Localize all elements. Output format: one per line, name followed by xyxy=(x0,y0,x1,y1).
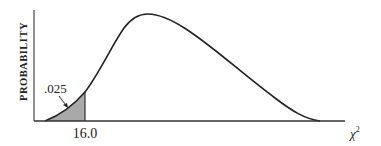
x-tick-label: 16.0 xyxy=(73,126,98,141)
x-axis-label: χ2 xyxy=(348,125,360,141)
arrow-head xyxy=(63,103,68,108)
area-label: .025 xyxy=(44,81,67,96)
chi-square-chart: PROBABILITY .025 16.0 χ2 xyxy=(0,0,381,146)
density-curve xyxy=(45,14,320,121)
shaded-tail-area xyxy=(45,92,85,121)
y-axis-label: PROBABILITY xyxy=(18,22,29,101)
